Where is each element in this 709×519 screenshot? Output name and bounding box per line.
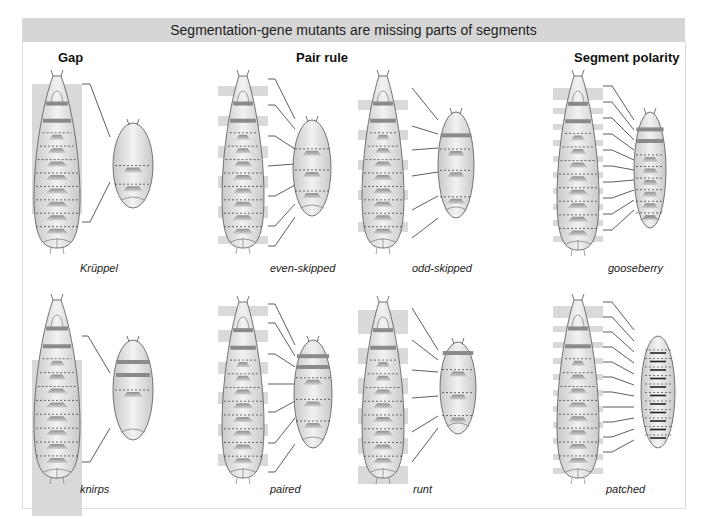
wildtype-larva-patched — [557, 294, 599, 484]
mutant-larva-paired — [294, 336, 332, 448]
mutant-larva-runt — [440, 338, 476, 434]
mapping-lines-patched — [603, 302, 634, 452]
mutant-larva-knirps — [113, 336, 153, 440]
caption-even-skipped: even-skipped — [270, 262, 335, 274]
mutant-larva-odd-skipped — [438, 108, 474, 218]
mapping-lines-knirps — [82, 336, 110, 462]
mapping-lines-paired — [268, 304, 295, 472]
mapping-lines-runt — [412, 308, 438, 462]
segmentation-diagram — [0, 0, 709, 519]
caption-gooseberry: gooseberry — [608, 262, 663, 274]
mutant-larva-gooseberry — [634, 108, 666, 228]
wildtype-larva-paired — [222, 296, 264, 484]
mutant-larva-patched — [641, 336, 675, 448]
caption-paired: paired — [270, 483, 301, 495]
wildtype-larva-even-skipped — [222, 70, 264, 254]
mapping-lines-kruppel — [82, 84, 110, 222]
wildtype-larva-odd-skipped — [362, 70, 404, 254]
mapping-lines-odd-skipped — [412, 88, 438, 238]
caption-kruppel: Krüppel — [80, 262, 118, 274]
mutant-larva-kruppel — [113, 119, 153, 208]
mutant-larva-even-skipped — [293, 116, 331, 216]
wildtype-larva-knirps — [34, 294, 80, 484]
mapping-lines-even-skipped — [268, 79, 295, 246]
caption-patched: patched — [606, 483, 645, 495]
caption-knirps: knirps — [80, 483, 109, 495]
caption-odd-skipped: odd-skipped — [412, 262, 472, 274]
caption-runt: runt — [413, 483, 432, 495]
mapping-lines-gooseberry — [603, 86, 634, 230]
